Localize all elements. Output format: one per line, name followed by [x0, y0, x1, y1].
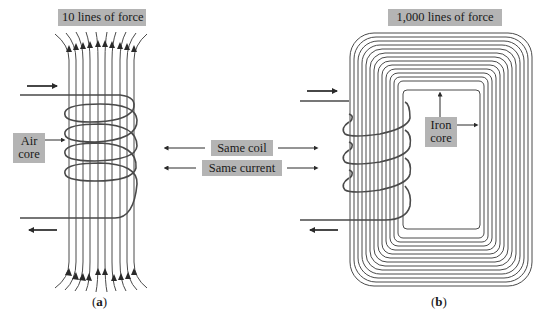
caption-close-paren: ) — [443, 294, 447, 309]
panel-b-iron-core — [300, 33, 532, 286]
iron-core-label-line2: core — [429, 132, 453, 145]
iron-core-label: Iron core — [425, 117, 457, 147]
iron-core-field-lines — [350, 33, 532, 286]
panel-a-title: 10 lines of force — [58, 9, 146, 26]
panel-b-caption: (b) — [431, 294, 447, 310]
same-current-label: Same current — [202, 160, 282, 176]
air-core-field-lines — [55, 32, 147, 292]
caption-letter-b: b — [435, 294, 442, 309]
panel-a-caption: (a) — [92, 294, 107, 310]
panel-b-title: 1,000 lines of force — [388, 9, 502, 26]
electromagnet-comparison-figure: 10 lines of force Air core 1,000 lines o… — [0, 0, 542, 319]
same-coil-label: Same coil — [211, 140, 273, 156]
air-core-label: Air core — [13, 133, 45, 163]
caption-close-paren: ) — [103, 294, 107, 309]
air-core-label-line2: core — [17, 148, 41, 161]
